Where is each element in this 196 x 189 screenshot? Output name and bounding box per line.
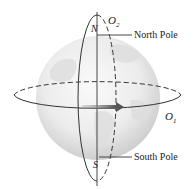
earth-orbits-diagram: N S O2 O1 North Pole South Pole	[0, 0, 196, 189]
orbit2-label: O2	[108, 14, 120, 29]
orbit2-subscript: 2	[116, 21, 120, 29]
orbit1-letter: O	[165, 110, 173, 122]
north-letter: N	[90, 23, 99, 34]
orbit2-letter: O	[108, 14, 116, 26]
south-pole-label: South Pole	[134, 151, 178, 162]
south-letter: S	[93, 159, 98, 170]
orbit1-label: O1	[165, 110, 176, 125]
north-pole-label: North Pole	[134, 29, 178, 40]
orbit1-subscript: 1	[173, 117, 177, 125]
